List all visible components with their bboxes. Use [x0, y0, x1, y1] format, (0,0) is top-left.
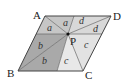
region-label-b-lower: b — [42, 55, 47, 66]
label-P: P — [70, 35, 76, 47]
region-label-b-upper: b — [38, 40, 43, 51]
region-label-c-lower: c — [64, 55, 69, 66]
region-label-a-top: a — [63, 17, 68, 28]
label-C: C — [85, 69, 92, 81]
label-D: D — [113, 10, 121, 22]
label-A: A — [33, 9, 41, 21]
label-B: B — [7, 67, 14, 79]
region-label-c-right: c — [84, 39, 89, 50]
parallelogram-diagram: A D B C P a a d d b b c c — [0, 0, 130, 83]
region-label-a-left: a — [47, 22, 52, 33]
